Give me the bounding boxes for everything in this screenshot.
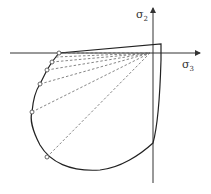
- x-axis-label: σ3: [182, 58, 194, 73]
- point-marker: [30, 110, 34, 114]
- point-marker: [45, 68, 49, 72]
- stress-path-6: [47, 53, 150, 157]
- stress-path-2: [52, 53, 150, 62]
- point-marker: [38, 82, 42, 86]
- stress-diagram: σ2 σ3: [0, 0, 211, 194]
- point-marker: [57, 51, 61, 55]
- y-axis-label: σ2: [136, 8, 148, 23]
- point-marker: [45, 155, 49, 159]
- stress-paths: [32, 53, 150, 157]
- point-marker: [50, 60, 54, 64]
